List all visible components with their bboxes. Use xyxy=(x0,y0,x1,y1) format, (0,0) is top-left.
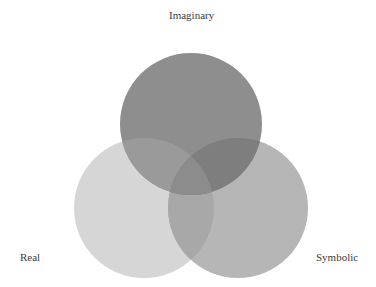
label-real: Real xyxy=(20,251,40,263)
label-symbolic: Symbolic xyxy=(316,251,358,263)
label-imaginary: Imaginary xyxy=(169,9,214,21)
venn-diagram xyxy=(0,0,376,287)
